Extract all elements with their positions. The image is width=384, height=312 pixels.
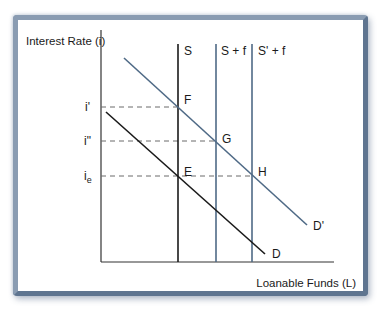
curve-label-s-plus-f: S + f bbox=[221, 44, 247, 58]
curve-label-s: S bbox=[184, 44, 192, 58]
rate-label-i-e: ie bbox=[84, 169, 92, 185]
point-label-f: F bbox=[184, 93, 191, 107]
rate-label-i-prime: i' bbox=[85, 100, 90, 114]
loanable-funds-diagram: Interest Rate (i) Loanable Funds (L) i' … bbox=[0, 0, 384, 312]
point-label-e: E bbox=[184, 165, 192, 179]
demand-curve-d bbox=[106, 112, 265, 254]
curve-label-d-prime: D' bbox=[313, 219, 324, 233]
curve-label-d: D bbox=[272, 247, 281, 261]
point-label-h: H bbox=[258, 165, 267, 179]
rate-label-i-double-prime: i" bbox=[84, 134, 91, 148]
point-label-g: G bbox=[222, 132, 231, 146]
y-axis-label: Interest Rate (i) bbox=[26, 35, 105, 47]
x-axis-label: Loanable Funds (L) bbox=[256, 277, 356, 289]
curve-label-s-prime-plus-f: S' + f bbox=[258, 44, 286, 58]
